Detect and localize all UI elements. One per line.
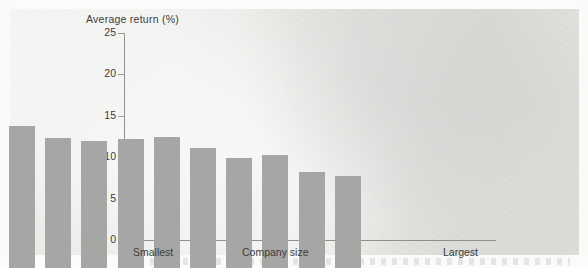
bar bbox=[45, 138, 71, 268]
y-tick-label: 25 bbox=[90, 26, 116, 38]
y-tick-label: 20 bbox=[90, 67, 116, 79]
chart-screenshot: Average return (%) 0510152025 Smallest C… bbox=[0, 0, 588, 268]
x-axis-label-smallest: Smallest bbox=[133, 246, 173, 258]
y-tick-mark bbox=[118, 33, 125, 34]
bar bbox=[335, 176, 361, 268]
bar-chart: Average return (%) 0510152025 Smallest C… bbox=[0, 0, 588, 268]
y-tick-mark bbox=[118, 74, 125, 75]
bar bbox=[81, 141, 107, 268]
y-tick-mark bbox=[118, 116, 125, 117]
x-axis-label-largest: Largest bbox=[443, 246, 478, 258]
y-axis-title: Average return (%) bbox=[86, 13, 179, 25]
x-axis-title: Company size bbox=[242, 246, 309, 258]
bar bbox=[190, 148, 216, 268]
bar bbox=[9, 126, 35, 268]
y-tick-label: 15 bbox=[90, 109, 116, 121]
